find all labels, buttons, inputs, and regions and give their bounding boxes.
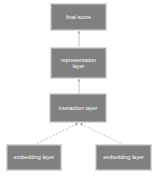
node-final-score: final score [51,4,106,30]
node-label: embedding layer [14,154,55,161]
node-label: embedding layer [103,154,144,161]
edge-embedding-left-to-interaction [34,124,77,145]
node-representation-layer: representation layer [51,48,106,78]
node-interaction-layer: interaction layer [50,94,106,122]
node-embedding-layer-right: embedding layer [96,145,151,170]
node-label: representation layer [55,57,102,70]
node-label: interaction layer [59,105,98,112]
node-label: final score [66,14,91,21]
architecture-diagram: final score representation layer interac… [0,0,160,180]
edge-embedding-right-to-interaction [81,124,124,145]
node-embedding-layer-left: embedding layer [7,145,61,170]
